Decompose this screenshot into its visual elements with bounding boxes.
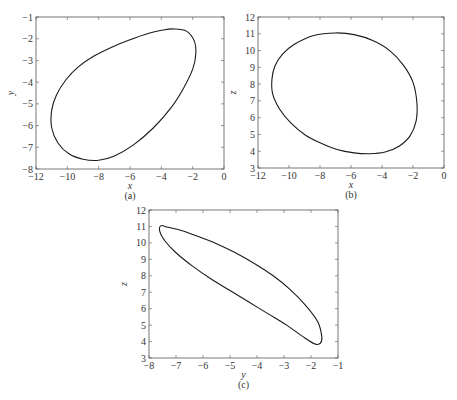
y-tick-label: 12 (245, 12, 255, 23)
y-tick-label: 4 (141, 336, 146, 347)
y-tick-label: −6 (22, 120, 33, 131)
y-tick-label: 6 (141, 303, 146, 314)
y-tick-label: 11 (245, 28, 255, 39)
x-tick-label: −2 (408, 170, 419, 181)
x-tick-label: −8 (93, 171, 104, 182)
y-tick-label: 10 (245, 45, 255, 56)
y-tick-label: 5 (141, 320, 146, 331)
y-axis-label: z (227, 90, 238, 95)
x-tick-label: −5 (225, 360, 236, 371)
x-tick-label: −4 (377, 170, 388, 181)
y-tick-label: −8 (22, 164, 33, 175)
x-tick-label: −3 (279, 360, 290, 371)
y-tick-label: 12 (136, 205, 146, 216)
axes-frame (149, 210, 338, 358)
subplot-caption: (a) (124, 190, 135, 202)
y-tick-label: −5 (22, 98, 33, 109)
subplot-c-y-vs-z: −8−7−6−5−4−3−2−13456789101112yz(c) (118, 205, 343, 392)
y-axis-label: z (118, 282, 129, 287)
x-tick-label: −2 (187, 171, 198, 182)
x-tick-label: 0 (222, 171, 227, 182)
subplot-b-x-vs-z: −12−10−8−6−4−203456789101112xz(b) (227, 12, 447, 202)
x-tick-label: −8 (315, 170, 326, 181)
y-tick-label: 7 (250, 95, 255, 106)
y-tick-label: 3 (250, 163, 255, 174)
y-tick-label: 4 (250, 146, 255, 157)
trajectory-curve (51, 29, 196, 161)
y-tick-label: −1 (22, 12, 33, 23)
y-tick-label: 9 (250, 62, 255, 73)
x-tick-label: 0 (442, 170, 447, 181)
y-tick-label: −4 (22, 77, 33, 88)
y-tick-label: 8 (141, 270, 146, 281)
y-tick-label: 5 (250, 129, 255, 140)
y-tick-label: 7 (141, 287, 146, 298)
y-tick-label: 9 (141, 254, 146, 265)
y-axis-label: y (5, 90, 16, 96)
y-tick-label: 3 (141, 353, 146, 364)
x-tick-label: −2 (306, 360, 317, 371)
x-tick-label: −6 (198, 360, 209, 371)
trajectory-curve (272, 33, 417, 154)
subplot-a-x-vs-y: −12−10−8−6−4−20−8−7−6−5−4−3−2−1xy(a) (5, 12, 227, 203)
x-tick-label: −10 (60, 171, 76, 182)
x-tick-label: −7 (171, 360, 182, 371)
y-tick-label: −3 (22, 55, 33, 66)
x-tick-label: −1 (333, 360, 344, 371)
x-tick-label: −4 (252, 360, 263, 371)
subplot-caption: (b) (345, 189, 357, 201)
figure-canvas: −12−10−8−6−4−20−8−7−6−5−4−3−2−1xy(a) −12… (0, 0, 457, 400)
x-tick-label: −4 (156, 171, 167, 182)
y-tick-label: 10 (136, 237, 146, 248)
y-tick-label: 6 (250, 112, 255, 123)
y-tick-label: 11 (136, 221, 146, 232)
y-tick-label: −7 (22, 142, 33, 153)
subplot-caption: (c) (238, 379, 249, 391)
y-tick-label: −2 (22, 33, 33, 44)
trajectory-curve (160, 225, 322, 344)
y-tick-label: 8 (250, 79, 255, 90)
x-tick-label: −10 (281, 170, 297, 181)
